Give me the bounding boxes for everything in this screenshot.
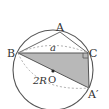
label-c-vertex: C [89, 47, 97, 60]
center-point-o [51, 69, 54, 72]
label-side-a: a [50, 42, 56, 53]
label-a-prime-vertex: A′ [87, 88, 99, 101]
label-b-vertex: B [7, 47, 15, 60]
circumcircle-diagram: A B C A′ O a 2R [0, 0, 109, 109]
label-o-center: O [48, 74, 56, 85]
label-a-vertex: A [55, 21, 65, 34]
label-diameter-2r: 2R [32, 75, 47, 86]
